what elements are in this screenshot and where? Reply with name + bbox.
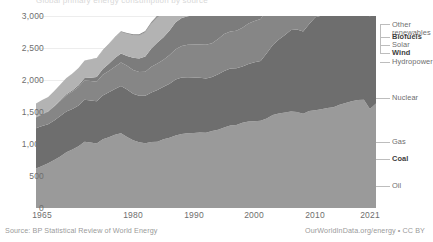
source-note: Source: BP Statistical Review of World E… bbox=[5, 226, 157, 235]
x-tick-2000: 2000 bbox=[244, 210, 264, 220]
x-tick-2010: 2010 bbox=[305, 210, 325, 220]
leader-hydropower bbox=[380, 62, 390, 63]
legend-item-oil[interactable]: Oil bbox=[392, 182, 401, 190]
legend-item-wind[interactable]: Wind bbox=[392, 49, 410, 57]
leader-biofuels bbox=[380, 37, 390, 38]
stacked-area-series bbox=[36, 16, 376, 208]
leader-coal bbox=[376, 159, 390, 160]
plot-area bbox=[36, 16, 376, 208]
x-tick-1965: 1965 bbox=[32, 210, 52, 220]
legend-item-nuclear[interactable]: Nuclear bbox=[392, 94, 418, 102]
x-tick-1990: 1990 bbox=[184, 210, 204, 220]
legend: Other renewables Biofuels Solar Wind Hyd… bbox=[378, 0, 430, 242]
page-title: Global primary energy consumption by sou… bbox=[36, 0, 208, 5]
legend-item-hydropower[interactable]: Hydropower bbox=[392, 58, 433, 66]
leader-bracket-renewables bbox=[380, 24, 381, 54]
leader-gas bbox=[376, 142, 390, 143]
legend-item-coal[interactable]: Coal bbox=[392, 155, 408, 163]
leader-nuclear bbox=[376, 98, 390, 99]
x-tick-2021: 2021 bbox=[360, 210, 380, 220]
leader-oil bbox=[376, 186, 390, 187]
leader-wind bbox=[380, 53, 390, 54]
attribution[interactable]: OurWorldInData.org/energy • CC BY bbox=[305, 226, 425, 235]
leader-solar bbox=[380, 45, 390, 46]
leader-other-renewables bbox=[380, 24, 390, 25]
x-tick-1980: 1980 bbox=[123, 210, 143, 220]
legend-item-gas[interactable]: Gas bbox=[392, 138, 406, 146]
